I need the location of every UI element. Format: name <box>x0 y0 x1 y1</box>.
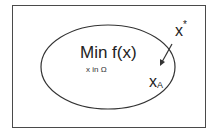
optimum-label: x* <box>175 21 187 40</box>
diagram-shapes <box>0 0 220 137</box>
optimum-superscript: * <box>183 19 187 30</box>
point-a-subscript: A <box>157 80 163 90</box>
arrow-icon <box>160 44 172 66</box>
optimum-base: x <box>175 22 183 39</box>
objective-label: Min f(x) <box>80 43 137 63</box>
point-a-label: xA <box>149 73 163 91</box>
point-a-base: x <box>149 73 157 90</box>
constraint-label: x in Ω <box>86 65 107 74</box>
feasible-set-ellipse <box>41 25 175 109</box>
